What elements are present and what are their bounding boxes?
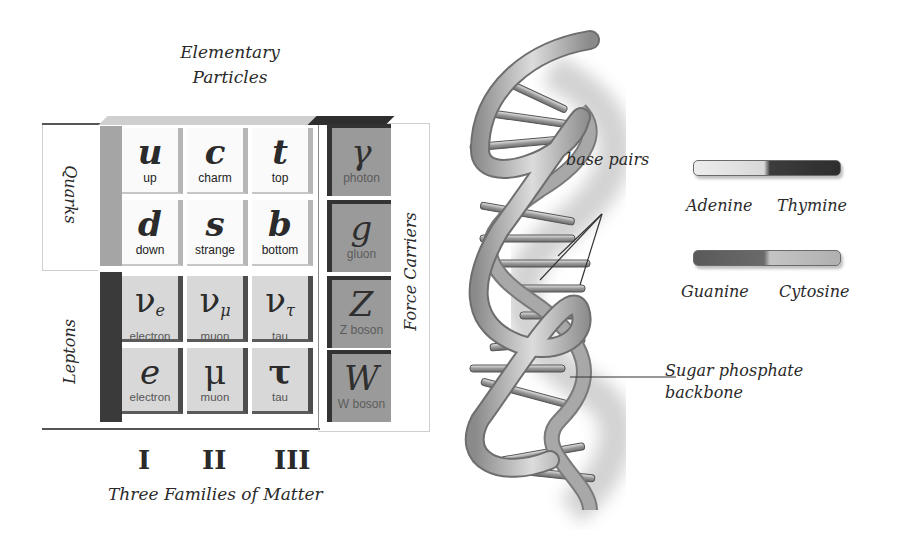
particle-name: photon: [332, 172, 391, 184]
frame-bottom-line: [42, 428, 320, 430]
particle-cell-electron-neutrino: νe electron neutrino: [122, 276, 183, 342]
leptons-label: Leptons: [60, 317, 79, 387]
particle-cell-muon-neutrino: νμ muon neutrino: [187, 276, 248, 342]
force-carriers-label: Force Carriers: [401, 212, 420, 332]
diagram-title: Elementary Particles: [160, 40, 300, 90]
particle-symbol: t: [252, 132, 308, 172]
particle-cell-down: d down: [122, 200, 183, 266]
particle-symbol: τ: [252, 352, 308, 392]
particle-symbol: c: [187, 132, 243, 172]
frame-divider-vertical: [318, 125, 319, 430]
particle-symbol: g: [332, 208, 391, 248]
particle-symbol: s: [187, 204, 243, 244]
particle-name: charm: [187, 172, 243, 184]
particle-cell-up: u up: [122, 128, 183, 194]
backbone-label: Sugar phosphate backbone: [665, 360, 803, 404]
cube-top-face: [99, 116, 318, 125]
particle-cell-muon: μ muon: [187, 348, 248, 414]
guanine-cytosine-bar: [693, 250, 841, 266]
particle-name: electron: [122, 331, 178, 342]
generation-3: III: [274, 445, 311, 475]
particle-cell-bottom: b bottom: [252, 200, 313, 266]
particle-name: strange: [187, 244, 243, 256]
title-line-2: Particles: [160, 65, 300, 90]
adenine-thymine-bar: [693, 160, 841, 176]
particle-name: W boson: [332, 398, 391, 410]
particle-symbol: d: [122, 204, 178, 244]
cytosine-label: Cytosine: [779, 282, 849, 301]
base-pairs-label: base pairs: [566, 150, 649, 169]
particle-name: muon: [187, 392, 243, 403]
particle-symbol: W: [332, 358, 391, 398]
quark-side-face: [100, 126, 122, 266]
particle-name: muon: [187, 331, 243, 342]
particle-symbol: γ: [332, 132, 391, 172]
particle-name: Z boson: [332, 324, 391, 336]
particle-cell-w-boson: W W boson: [327, 350, 391, 422]
particle-symbol: μ: [187, 352, 243, 392]
generation-1: I: [138, 445, 150, 475]
particle-symbol: νμ: [187, 280, 243, 331]
particle-cell-z-boson: Z Z boson: [327, 276, 391, 348]
particle-cell-top: t top: [252, 128, 313, 194]
particle-symbol: ντ: [252, 280, 308, 331]
particle-cell-strange: s strange: [187, 200, 248, 266]
particle-name: up: [122, 172, 178, 184]
particle-name: bottom: [252, 244, 308, 256]
backbone-label-line-2: backbone: [665, 382, 803, 404]
title-line-1: Elementary: [160, 40, 300, 65]
particle-name: tau: [252, 392, 308, 403]
thymine-label: Thymine: [777, 196, 847, 215]
dna-double-helix-illustration: [440, 20, 680, 530]
lepton-side-face: [100, 272, 122, 422]
particle-symbol: b: [252, 204, 308, 244]
particle-cell-tau: τ tau: [252, 348, 313, 414]
particle-cell-photon: γ photon: [327, 124, 391, 196]
particle-name: top: [252, 172, 308, 184]
adenine-label: Adenine: [686, 196, 752, 215]
particle-name: gluon: [332, 248, 391, 260]
particle-name: tau: [252, 331, 308, 342]
particle-cell-gluon: g gluon: [327, 200, 391, 272]
quarks-label: Quarks: [61, 165, 80, 225]
particle-symbol: Z: [332, 284, 391, 324]
generations-caption: Three Families of Matter: [108, 484, 323, 504]
backbone-label-line-1: Sugar phosphate: [665, 360, 803, 382]
particle-cell-tau-neutrino: ντ tau neutrino: [252, 276, 313, 342]
particle-name: down: [122, 244, 178, 256]
generation-2: II: [202, 445, 226, 475]
particle-cell-charm: c charm: [187, 128, 248, 194]
particle-cell-electron: e electron: [122, 348, 183, 414]
particle-symbol: u: [122, 132, 178, 172]
particle-symbol: e: [122, 352, 178, 392]
guanine-label: Guanine: [681, 282, 749, 301]
particle-symbol: νe: [122, 280, 178, 331]
particle-name: electron: [122, 392, 178, 403]
